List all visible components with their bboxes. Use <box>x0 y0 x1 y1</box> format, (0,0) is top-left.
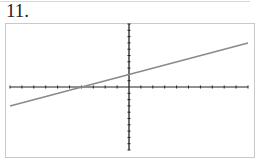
axes <box>10 24 248 150</box>
graph-plot <box>0 0 258 163</box>
